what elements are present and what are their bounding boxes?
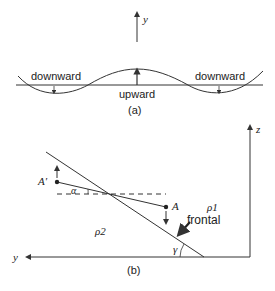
gamma-label: γ bbox=[173, 244, 177, 255]
gamma-arc bbox=[180, 244, 184, 257]
frontal-line bbox=[46, 152, 204, 257]
y-axis-b-label: y bbox=[13, 252, 18, 263]
downward-label-right: downward bbox=[195, 71, 245, 82]
rho2-label: ρ2 bbox=[95, 226, 106, 237]
z-axis-label: z bbox=[256, 124, 260, 135]
point-a-label: A bbox=[172, 201, 179, 212]
point-a-prime-label: A′ bbox=[38, 176, 47, 187]
frontal-label: frontal bbox=[187, 214, 220, 226]
diagram-canvas bbox=[0, 0, 275, 291]
caption-a: (a) bbox=[128, 105, 141, 116]
caption-b: (b) bbox=[127, 265, 140, 276]
downward-label-left: downward bbox=[31, 71, 81, 82]
upward-label: upward bbox=[119, 89, 155, 100]
point-a-prime-dot bbox=[55, 180, 59, 184]
point-a-dot bbox=[164, 205, 168, 209]
rho1-label: ρ1 bbox=[207, 202, 218, 213]
alpha-label: α bbox=[71, 186, 76, 196]
y-axis-label: y bbox=[143, 14, 148, 25]
